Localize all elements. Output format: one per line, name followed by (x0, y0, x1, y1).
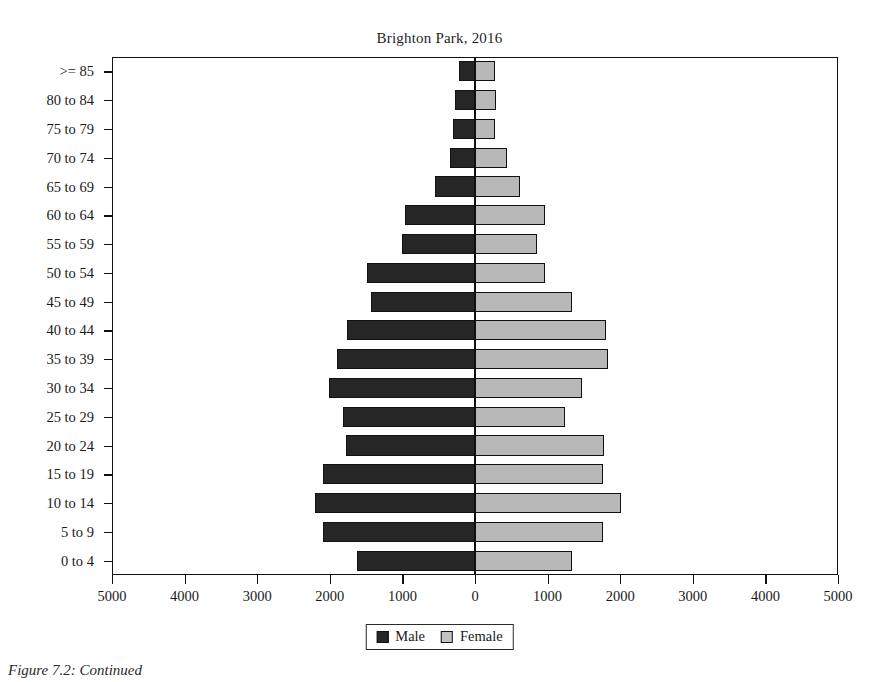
y-axis-labels: >= 8580 to 8475 to 7970 to 7465 to 6960 … (0, 57, 104, 575)
bar-female[interactable] (475, 205, 545, 225)
x-tick-label: 2000 (606, 588, 635, 605)
x-tick-mark (475, 575, 476, 584)
y-tick-label: 55 to 59 (46, 237, 94, 252)
x-tick-label: 3000 (243, 588, 272, 605)
y-tick-label: 65 to 69 (46, 180, 94, 195)
bars-layer (112, 57, 838, 575)
bar-male[interactable] (346, 435, 475, 455)
y-tick-mark (104, 474, 112, 475)
bar-female[interactable] (475, 320, 606, 340)
x-tick-mark (693, 575, 694, 584)
x-tick-mark (548, 575, 549, 584)
bar-male[interactable] (455, 90, 475, 110)
y-tick-label: 20 to 24 (46, 439, 94, 454)
x-tick-mark (185, 575, 186, 584)
bar-female[interactable] (475, 551, 572, 571)
y-tick-label: 10 to 14 (46, 496, 94, 511)
bar-male[interactable] (459, 61, 475, 81)
bar-female[interactable] (475, 464, 603, 484)
x-axis-labels: 5000400030002000100001000200030004000500… (0, 588, 879, 610)
y-tick-mark (104, 503, 112, 504)
legend-label-male: Male (395, 628, 425, 645)
y-tick-mark (104, 388, 112, 389)
bar-male[interactable] (329, 378, 475, 398)
bar-male[interactable] (402, 234, 475, 254)
chart-title: Brighton Park, 2016 (0, 30, 879, 47)
legend-entry-male[interactable]: Male (376, 628, 425, 645)
bar-male[interactable] (323, 522, 475, 542)
bar-male[interactable] (371, 292, 475, 312)
figure-caption: Figure 7.2: Continued (8, 662, 142, 679)
bar-female[interactable] (475, 234, 537, 254)
y-tick-mark (104, 330, 112, 331)
bar-male[interactable] (453, 119, 475, 139)
bar-female[interactable] (475, 61, 495, 81)
y-tick-mark (104, 71, 112, 72)
zero-axis-line (474, 57, 476, 575)
legend-entry-female[interactable]: Female (441, 628, 503, 645)
bar-male[interactable] (450, 148, 475, 168)
x-tick-label: 1000 (388, 588, 417, 605)
female-swatch-icon (441, 631, 453, 643)
x-tick-label: 5000 (824, 588, 853, 605)
y-tick-mark (104, 561, 112, 562)
y-tick-label: 25 to 29 (46, 410, 94, 425)
bar-male[interactable] (357, 551, 475, 571)
y-tick-mark (104, 244, 112, 245)
bar-female[interactable] (475, 349, 608, 369)
y-tick-mark (104, 129, 112, 130)
male-swatch-icon (376, 631, 388, 643)
y-tick-label: 40 to 44 (46, 323, 94, 338)
bar-female[interactable] (475, 378, 582, 398)
x-axis-ticks (112, 575, 838, 587)
bar-female[interactable] (475, 148, 507, 168)
x-tick-label: 5000 (98, 588, 127, 605)
bar-female[interactable] (475, 119, 495, 139)
y-tick-mark (104, 215, 112, 216)
bar-female[interactable] (475, 407, 565, 427)
y-tick-label: 80 to 84 (46, 93, 94, 108)
bar-male[interactable] (343, 407, 475, 427)
y-tick-label: 75 to 79 (46, 122, 94, 137)
population-pyramid-figure: Brighton Park, 2016 >= 8580 to 8475 to 7… (0, 0, 879, 682)
x-tick-mark (257, 575, 258, 584)
y-tick-label: 15 to 19 (46, 467, 94, 482)
x-tick-mark (838, 575, 839, 584)
y-tick-label: 60 to 64 (46, 208, 94, 223)
bar-male[interactable] (323, 464, 475, 484)
bar-female[interactable] (475, 90, 496, 110)
x-tick-label: 4000 (751, 588, 780, 605)
chart-legend: Male Female (365, 624, 513, 650)
bar-female[interactable] (475, 493, 621, 513)
bar-female[interactable] (475, 176, 520, 196)
y-tick-mark (104, 158, 112, 159)
y-tick-mark (104, 359, 112, 360)
bar-male[interactable] (337, 349, 475, 369)
x-tick-label: 1000 (533, 588, 562, 605)
y-tick-label: 45 to 49 (46, 295, 94, 310)
bar-male[interactable] (347, 320, 475, 340)
y-tick-label: 50 to 54 (46, 266, 94, 281)
x-tick-mark (402, 575, 403, 584)
y-tick-label: 0 to 4 (61, 554, 94, 569)
x-tick-label: 3000 (678, 588, 707, 605)
bar-female[interactable] (475, 435, 604, 455)
y-tick-label: 35 to 39 (46, 352, 94, 367)
y-tick-mark (104, 273, 112, 274)
y-tick-mark (104, 187, 112, 188)
bar-male[interactable] (405, 205, 475, 225)
legend-label-female: Female (460, 628, 503, 645)
y-tick-mark (104, 446, 112, 447)
x-tick-mark (112, 575, 113, 584)
x-tick-label: 2000 (315, 588, 344, 605)
y-tick-mark (104, 100, 112, 101)
bar-male[interactable] (315, 493, 475, 513)
x-tick-mark (330, 575, 331, 584)
x-tick-mark (765, 575, 766, 584)
bar-male[interactable] (435, 176, 475, 196)
bar-female[interactable] (475, 522, 603, 542)
bar-female[interactable] (475, 292, 572, 312)
bar-male[interactable] (367, 263, 475, 283)
bar-female[interactable] (475, 263, 545, 283)
y-tick-label: 5 to 9 (61, 525, 94, 540)
